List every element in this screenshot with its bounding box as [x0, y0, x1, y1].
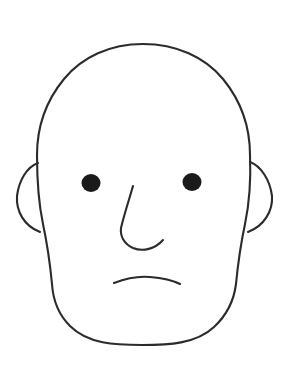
right-eye-pupil: [183, 173, 202, 191]
left-eye-pupil: [82, 174, 101, 192]
face-drawing-canvas: [0, 0, 288, 379]
canvas-background: [0, 0, 288, 379]
